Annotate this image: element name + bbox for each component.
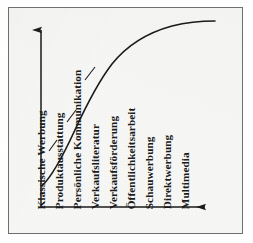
category-label-schauwerbung: Schauwerbung [144,137,155,210]
category-label-verkaufsliteratur: Verkaufsliteratur [90,124,101,209]
leader-line-persoenliche-kommunikation [85,67,95,80]
category-label-multimedia: Multimedia [180,152,191,209]
category-label-direktwerbung: Direktwerbung [162,135,173,209]
category-label-verkaufsfoerderung: Verkaufsförderung [108,116,119,209]
figure-container: Klassische Werbung Produktausstattung Pe… [0,0,253,243]
category-label-produktausstattung: Produktausstattung [54,112,65,209]
category-label-oeffentlichkeitsarbeit: Öffentlichkeitsarbeit [126,108,137,210]
category-label-klassische-werbung: Klassische Werbung [36,110,47,209]
category-label-persoenliche-kommunikation: Persönliche Kommunikation [72,70,83,210]
